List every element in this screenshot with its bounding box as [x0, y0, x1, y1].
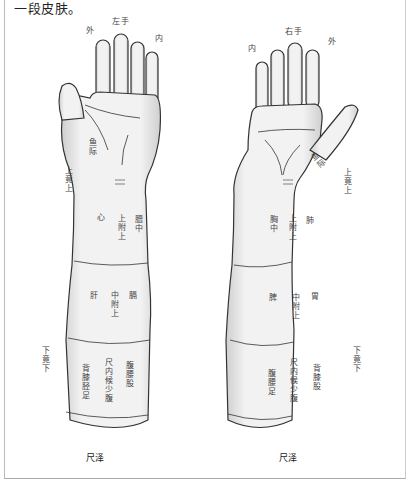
left-inner-label: 内: [155, 34, 164, 43]
left-finger: [96, 40, 110, 100]
left-lower-middle: 尺内候少腹: [103, 358, 112, 403]
left-side-upper-label: 上竟上: [63, 166, 72, 193]
left-side-lower-label: 下竟下: [40, 346, 49, 373]
right-lower-left: 腹腰足: [266, 369, 275, 396]
left-lower-right: 腹腰股: [124, 361, 133, 388]
right-finger: [271, 50, 284, 110]
left-upper-left: 心: [95, 213, 104, 222]
left-middle-middle: 中附上: [109, 291, 118, 318]
left-finger: [114, 34, 128, 100]
left-middle-left: 肝: [88, 291, 97, 300]
right-side-upper-label: 上竟上: [342, 168, 351, 195]
left-outer-label: 外: [86, 26, 95, 35]
right-bottom-caption: 尺泽: [279, 451, 297, 464]
right-upper-right: 肺: [304, 216, 313, 225]
right-side-lower-label: 下竟下: [351, 346, 360, 373]
left-thenar-label: 鱼际: [87, 138, 96, 156]
right-middle-middle: 中附上: [290, 293, 299, 320]
right-hand-label: 右手: [285, 27, 303, 36]
right-lower-right: 背膝股: [311, 364, 320, 391]
left-bottom-caption: 尺泽: [86, 451, 104, 464]
left-finger: [131, 42, 144, 102]
arm-diagrams: [0, 0, 410, 484]
right-upper-middle: 上附上: [287, 214, 296, 241]
right-outer-label: 外: [328, 37, 337, 46]
right-middle-right: 胃: [309, 292, 318, 301]
left-upper-right: 膻中: [133, 215, 142, 233]
left-upper-middle: 上附上: [116, 214, 125, 241]
left-lower-left: 背膝胫足: [80, 364, 89, 400]
right-finger: [306, 50, 319, 108]
left-middle-right: 膈: [127, 291, 136, 300]
right-finger: [256, 62, 268, 112]
right-upper-left: 胸中: [268, 215, 277, 233]
right-middle-left: 脾: [267, 293, 276, 302]
left-hand-label: 左手: [112, 17, 130, 26]
right-finger: [288, 43, 302, 109]
right-lower-middle: 尺内候少腹: [288, 358, 297, 403]
right-inner-label: 内: [248, 44, 257, 53]
